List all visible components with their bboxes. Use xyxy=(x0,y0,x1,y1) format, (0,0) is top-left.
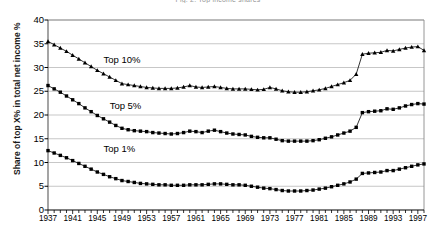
x-tick-label: 1997 xyxy=(409,214,427,223)
x-tick-label: 1965 xyxy=(211,214,229,223)
x-tick-label: 1969 xyxy=(236,214,254,223)
x-tick-label: 1941 xyxy=(64,214,82,223)
x-tick-label: 1973 xyxy=(261,214,279,223)
series-label: Top 10% xyxy=(103,54,140,65)
chart-plot-area xyxy=(0,0,436,242)
series-label: Top 1% xyxy=(103,143,135,154)
series-label: Top 5% xyxy=(110,100,142,111)
chart-container: Fig. 2. Top income shares Share of top X… xyxy=(0,0,436,242)
x-tick-label: 1981 xyxy=(310,214,328,223)
x-tick-label: 1949 xyxy=(113,214,131,223)
x-tick-label: 1937 xyxy=(39,214,57,223)
x-tick-label: 1977 xyxy=(285,214,303,223)
x-tick-label: 1945 xyxy=(88,214,106,223)
x-tick-label: 1953 xyxy=(138,214,156,223)
x-tick-label: 1957 xyxy=(162,214,180,223)
x-axis-tick-labels: 1937194119451949195319571961196519691973… xyxy=(48,214,424,226)
x-tick-label: 1989 xyxy=(359,214,377,223)
x-tick-label: 1985 xyxy=(335,214,353,223)
x-tick-label: 1961 xyxy=(187,214,205,223)
x-tick-label: 1993 xyxy=(384,214,402,223)
